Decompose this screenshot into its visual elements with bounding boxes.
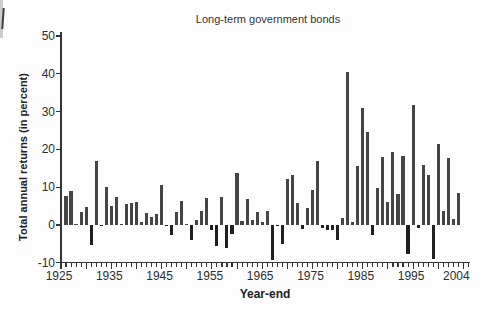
bar-1942 — [145, 213, 148, 225]
bar-1969 — [281, 225, 284, 244]
y-axis-tick-label: 40 — [25, 68, 55, 80]
bar-1958 — [225, 225, 228, 248]
x-axis-tick — [377, 263, 378, 267]
x-axis-tick — [216, 263, 217, 267]
bar-1978 — [326, 225, 329, 230]
bar-1962 — [246, 199, 249, 225]
bar-1931 — [90, 225, 93, 245]
x-axis-tick — [292, 263, 293, 267]
x-axis-tick-label: 1955 — [190, 270, 230, 282]
x-axis-tick-label: 1975 — [291, 270, 331, 282]
x-axis-tick — [397, 263, 398, 267]
bar-1968 — [276, 225, 279, 226]
bar-1977 — [321, 225, 324, 228]
bar-1974 — [306, 208, 309, 225]
y-axis-tick — [56, 35, 61, 36]
bar-1928 — [74, 224, 77, 225]
x-axis-tick — [221, 263, 222, 267]
x-axis-tick — [71, 263, 72, 267]
x-axis-tick — [151, 263, 152, 267]
bar-1987 — [371, 225, 374, 235]
bar-1984 — [356, 166, 359, 225]
bar-1967 — [271, 225, 274, 260]
bar-1973 — [301, 225, 304, 229]
bar-1929 — [80, 212, 83, 225]
x-axis-tick — [237, 263, 238, 269]
textbook-figure: Long-term government bonds Total annual … — [0, 0, 492, 311]
bar-1982 — [346, 72, 349, 225]
x-axis-tick — [297, 263, 298, 267]
bar-1989 — [381, 157, 384, 225]
bar-1946 — [165, 225, 168, 226]
bar-1964 — [256, 212, 259, 225]
bar-1961 — [240, 221, 243, 225]
bar-1927 — [69, 191, 72, 225]
x-axis-tick — [131, 263, 132, 267]
bar-1938 — [125, 204, 128, 225]
bar-2001 — [442, 211, 445, 225]
x-axis-tick — [327, 263, 328, 267]
x-axis-tick — [196, 263, 197, 267]
x-axis-tick — [106, 263, 107, 267]
bar-1940 — [135, 202, 138, 225]
x-axis-tick — [342, 263, 343, 267]
x-axis-tick — [272, 263, 273, 267]
bar-1994 — [406, 225, 409, 254]
bar-1947 — [170, 225, 173, 235]
x-axis-tick — [302, 263, 303, 267]
bar-1956 — [215, 225, 218, 246]
bar-1953 — [200, 211, 203, 225]
x-axis-tick-label: 1985 — [341, 270, 381, 282]
x-axis-tick — [141, 263, 142, 267]
x-axis-tick — [116, 263, 117, 267]
bar-2003 — [452, 219, 455, 225]
y-axis-line — [60, 32, 61, 263]
plot-area: 50403020100-1019251935194519551965197519… — [0, 0, 492, 311]
x-axis-tick — [156, 263, 157, 267]
x-axis-tick — [91, 263, 92, 267]
bar-1955 — [210, 225, 213, 230]
x-axis-tick — [317, 263, 318, 267]
x-axis-tick — [146, 263, 147, 267]
bar-1963 — [251, 220, 254, 225]
x-axis-tick — [257, 263, 258, 267]
bar-1999 — [432, 225, 435, 259]
x-axis-tick — [101, 263, 102, 267]
x-axis-tick — [171, 263, 172, 267]
x-axis-tick — [287, 263, 288, 269]
x-axis-tick — [136, 263, 137, 269]
bar-1992 — [396, 194, 399, 225]
bar-1943 — [150, 217, 153, 225]
x-axis-tick — [367, 263, 368, 267]
x-axis-tick — [81, 263, 82, 267]
bar-2004 — [457, 193, 460, 225]
x-axis-tick — [191, 263, 192, 267]
y-axis-tick — [56, 187, 61, 188]
x-axis-tick — [372, 263, 373, 267]
y-axis-tick-label: 0 — [25, 219, 55, 231]
x-axis-tick — [181, 263, 182, 267]
y-axis-tick-label: 20 — [25, 143, 55, 155]
x-axis-tick — [252, 263, 253, 267]
x-axis-line — [60, 262, 470, 263]
bar-1926 — [64, 196, 67, 225]
bar-1979 — [331, 225, 334, 230]
bar-2002 — [447, 158, 450, 225]
x-axis-tick — [332, 263, 333, 267]
x-axis-tick — [247, 263, 248, 267]
x-axis-tick — [231, 263, 232, 267]
x-axis-tick — [277, 263, 278, 267]
bar-1970 — [286, 179, 289, 225]
x-axis-tick — [86, 263, 87, 269]
x-axis-tick-label: 1995 — [391, 270, 431, 282]
bar-1975 — [311, 190, 314, 225]
bar-1993 — [401, 156, 404, 225]
bar-1988 — [376, 188, 379, 225]
y-axis-tick-label: 50 — [25, 30, 55, 42]
bar-2000 — [437, 144, 440, 225]
bar-1937 — [120, 224, 123, 225]
bar-1941 — [140, 222, 143, 225]
x-axis-tick — [392, 263, 393, 267]
bar-1954 — [205, 198, 208, 225]
x-axis-tick — [307, 263, 308, 267]
